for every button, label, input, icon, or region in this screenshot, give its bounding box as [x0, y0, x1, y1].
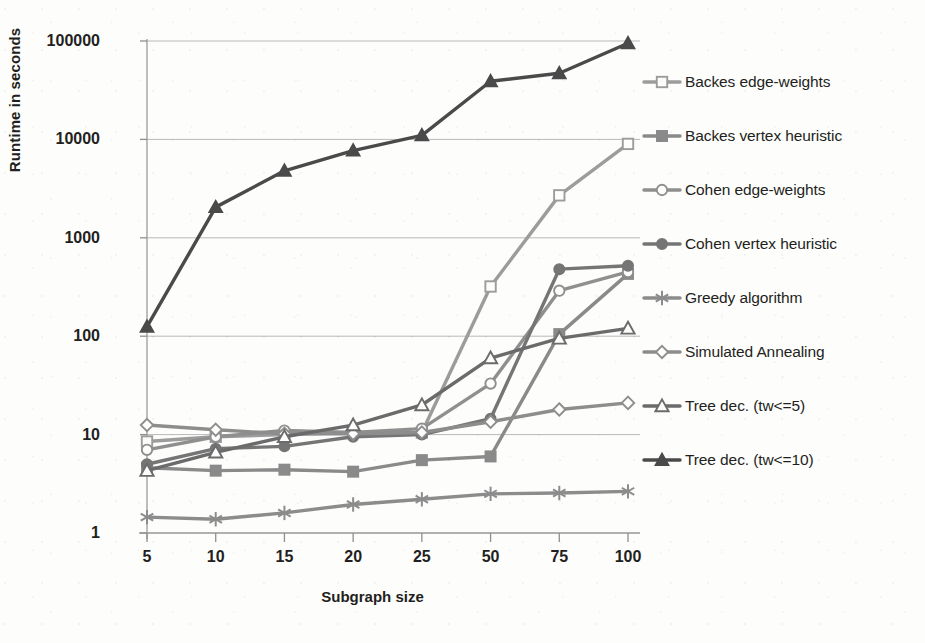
- series-5: [141, 397, 634, 440]
- legend-marker-icon: [642, 341, 682, 363]
- legend-item[interactable]: Cohen edge-weights: [642, 163, 922, 217]
- marker-filled-square: [657, 131, 667, 141]
- x-tick-label: 10: [207, 548, 225, 566]
- legend-item-label: Backes vertex heuristic: [685, 127, 842, 145]
- legend-marker-icon: [642, 233, 682, 255]
- legend-item-label: Cohen vertex heuristic: [685, 235, 837, 253]
- legend-marker-icon: [642, 179, 682, 201]
- legend-item[interactable]: Simulated Annealing: [642, 325, 922, 379]
- marker-open-diamond: [553, 403, 565, 415]
- legend-item[interactable]: Greedy algorithm: [642, 271, 922, 325]
- runtime-line-chart: Runtime in seconds 100000100001000100101…: [0, 0, 925, 643]
- legend-item-label: Greedy algorithm: [685, 289, 802, 307]
- marker-open-circle: [485, 378, 495, 388]
- series-4: [141, 484, 634, 526]
- legend-item[interactable]: Tree dec. (tw<=10): [642, 433, 922, 487]
- marker-open-circle: [657, 185, 667, 195]
- marker-open-square: [554, 190, 564, 200]
- x-tick-label: 100: [615, 548, 642, 566]
- marker-filled-circle: [554, 264, 564, 274]
- x-tick-label: 75: [550, 548, 568, 566]
- marker-open-square: [485, 281, 495, 291]
- series-6: [140, 322, 634, 476]
- gridlines: [147, 41, 640, 533]
- legend-item-label: Simulated Annealing: [685, 343, 824, 361]
- x-tick-label: 50: [482, 548, 500, 566]
- marker-filled-square: [279, 464, 289, 474]
- marker-filled-square: [417, 455, 427, 465]
- x-tick-label: 20: [344, 548, 362, 566]
- legend-item[interactable]: Backes edge-weights: [642, 55, 922, 109]
- marker-open-diamond: [141, 419, 153, 431]
- legend-item-label: Backes edge-weights: [685, 73, 830, 91]
- marker-filled-circle: [657, 239, 667, 249]
- legend-item[interactable]: Cohen vertex heuristic: [642, 217, 922, 271]
- marker-filled-circle: [623, 261, 633, 271]
- legend-item-label: Cohen edge-weights: [685, 181, 825, 199]
- marker-filled-square: [348, 466, 358, 476]
- marker-open-diamond: [656, 346, 668, 358]
- x-tick-label: 25: [413, 548, 431, 566]
- marker-open-circle: [142, 445, 152, 455]
- x-axis-title: Subgraph size: [110, 588, 635, 605]
- x-tick-label: 5: [143, 548, 152, 566]
- marker-open-circle: [554, 286, 564, 296]
- x-tick-label: 15: [276, 548, 294, 566]
- marker-open-square: [657, 77, 667, 87]
- legend-marker-icon: [642, 71, 682, 93]
- marker-filled-square: [211, 465, 221, 475]
- legend-item[interactable]: Backes vertex heuristic: [642, 109, 922, 163]
- legend-marker-icon: [642, 287, 682, 309]
- legend-item[interactable]: Tree dec. (tw<=5): [642, 379, 922, 433]
- series-line: [147, 43, 628, 326]
- marker-open-square: [623, 139, 633, 149]
- marker-filled-triangle: [621, 37, 634, 49]
- legend-marker-icon: [642, 125, 682, 147]
- legend-item-label: Tree dec. (tw<=10): [685, 451, 814, 469]
- marker-open-diamond: [622, 397, 634, 409]
- legend-marker-icon: [642, 395, 682, 417]
- chart-legend: Backes edge-weightsBackes vertex heurist…: [642, 55, 922, 487]
- legend-marker-icon: [642, 449, 682, 471]
- series-line: [147, 272, 628, 450]
- legend-item-label: Tree dec. (tw<=5): [685, 397, 805, 415]
- marker-filled-square: [485, 451, 495, 461]
